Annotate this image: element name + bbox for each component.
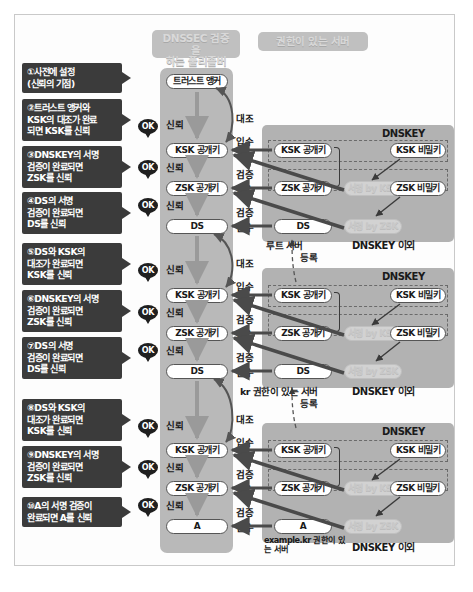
ok-badge-7-label: OK [142, 422, 154, 431]
callout-5-line1: ⑤DS와 KSK의 [27, 246, 117, 258]
zone-root-zsk-pub[interactable]: ZSK 공개키 [274, 181, 332, 196]
ok-badge-5-label: OK [142, 308, 154, 317]
callout-4-pointer [122, 207, 131, 219]
action-label-ipsu-2: 입수 [236, 182, 253, 196]
action-label-ipsu-3: 입수 [236, 220, 253, 234]
ok-badge-1: OK [138, 119, 158, 134]
zone-kr-zsk-priv[interactable]: ZSK 비밀키 [390, 326, 446, 341]
zone-example-server-label: example.kr 권한이 있는 서버 [264, 536, 348, 555]
zone-root-bracket [334, 147, 340, 187]
resolver-node-ksk-pub-kr[interactable]: KSK 공개키 [166, 288, 228, 303]
resolver-node-zsk-pub-root[interactable]: ZSK 공개키 [166, 181, 228, 196]
ok-badge-9-label: OK [142, 501, 154, 510]
ok-badge-7-nub [145, 433, 151, 438]
zone-root-zsk-priv[interactable]: ZSK 비밀키 [390, 181, 446, 196]
zone-kr-dnskey-title: DNSKEY [382, 271, 425, 282]
trust-label-3: 신뢰 [166, 198, 183, 212]
zone-example-ksk-pub[interactable]: KSK 공개키 [274, 443, 332, 458]
callout-5-line3: KSK를 신뢰 [27, 269, 117, 281]
callout-7: ⑦DS의 서명 검증이 완료되면 DS를 신뢰 [22, 337, 122, 379]
ok-badge-9: OK [138, 498, 158, 513]
callout-9-line1: ⑨DNSKEY의 서명 [27, 449, 117, 461]
zone-example-ksk-priv[interactable]: KSK 비밀키 [390, 443, 446, 458]
zone-example-a-record[interactable]: A [274, 519, 332, 534]
action-label-ipsu-4: 입수 [236, 279, 253, 293]
ok-badge-6: OK [138, 343, 158, 358]
callout-2-pointer [122, 114, 131, 126]
action-label-geomjeung-5: 검증 [236, 467, 253, 481]
zone-example-sig-by-zsk[interactable]: 서명 by ZSK [344, 519, 402, 534]
ok-badge-4-nub [145, 277, 151, 282]
ok-badge-2: OK [138, 160, 158, 175]
callout-6: ⑥DNSKEY의 서명 검증이 완료되면 ZSK를 신뢰 [22, 290, 122, 332]
zone-example-other-title: DNSKEY 이외 [352, 539, 415, 554]
resolver-node-ds-root[interactable]: DS [166, 219, 228, 234]
zone-kr-ksk-priv[interactable]: KSK 비밀키 [390, 288, 446, 303]
callout-6-line1: ⑥DNSKEY의 서명 [27, 293, 117, 305]
zone-root-ksk-priv[interactable]: KSK 비밀키 [390, 143, 446, 158]
callout-9-pointer [122, 461, 131, 473]
zone-kr-ds[interactable]: DS [274, 364, 332, 379]
diagram-canvas: DNSSEC 검증을 하는 풀리졸버 권한이 있는 서버 ①사전에 설정 (신뢰… [0, 0, 473, 592]
zone-root-sig-by-zsk[interactable]: 서명 by ZSK [344, 219, 402, 234]
action-label-geomjeung-3: 검증 [236, 312, 253, 326]
action-label-ipsu-5: 입수 [236, 327, 253, 341]
callout-4-line2: 검증이 완료되면 [27, 207, 117, 219]
resolver-node-ds-kr[interactable]: DS [166, 364, 228, 379]
zone-kr-zsk-pub[interactable]: ZSK 공개키 [274, 326, 332, 341]
trust-label-5: 신뢰 [166, 305, 183, 319]
callout-8-line1: ⑧DS와 KSK의 [27, 402, 117, 414]
action-label-ipsu-1: 입수 [236, 134, 253, 148]
ok-badge-9-nub [145, 512, 151, 517]
callout-10: ⑩A의 서명 검증이 완료되면 A를 신뢰 [22, 497, 122, 527]
heading-resolver-line2: 하는 풀리졸버 [158, 56, 234, 68]
callout-3-line2: 검증이 완료되면 [27, 161, 117, 173]
zone-example-zsk-pub[interactable]: ZSK 공개키 [274, 481, 332, 496]
ok-badge-2-label: OK [142, 163, 154, 172]
trust-label-7: 신뢰 [166, 418, 183, 432]
resolver-node-zsk-pub-kr[interactable]: ZSK 공개키 [166, 326, 228, 341]
callout-1-line1: ①사전에 설정 [27, 66, 117, 78]
trust-label-6: 신뢰 [166, 343, 183, 357]
ok-badge-7: OK [138, 419, 158, 434]
callout-8-pointer [122, 414, 131, 426]
zone-root-ds[interactable]: DS [274, 219, 332, 234]
callout-2-line3: 되면 KSK를 신뢰 [27, 125, 117, 137]
zone-example-bracket [334, 447, 340, 487]
resolver-node-zsk-pub-example[interactable]: ZSK 공개키 [166, 481, 228, 496]
callout-1-pointer [122, 72, 131, 84]
ok-badge-5-nub [145, 319, 151, 324]
ok-badge-3-nub [145, 212, 151, 217]
zone-example-zsk-priv[interactable]: ZSK 비밀키 [390, 481, 446, 496]
register-label-2: 등록 [300, 396, 317, 410]
resolver-node-ksk-pub-example[interactable]: KSK 공개키 [166, 443, 228, 458]
zone-root-other-title: DNSKEY 이외 [352, 237, 415, 252]
callout-8: ⑧DS와 KSK의 대조가 완료되면 KSK를 신뢰 [22, 399, 122, 441]
ok-badge-6-label: OK [142, 346, 154, 355]
callout-9-line2: 검증이 완료되면 [27, 461, 117, 473]
callout-5: ⑤DS와 KSK의 대조가 완료되면 KSK를 신뢰 [22, 243, 122, 285]
ok-badge-2-nub [145, 174, 151, 179]
callout-2: ②트러스트 앵커와 KSK의 대조가 완료 되면 KSK를 신뢰 [22, 99, 122, 141]
action-label-geomjeung-4: 검증 [236, 350, 253, 364]
callout-1: ①사전에 설정 (신뢰의 기점) [22, 63, 122, 93]
resolver-node-a-record[interactable]: A [166, 519, 228, 534]
zone-kr-ksk-pub[interactable]: KSK 공개키 [274, 288, 332, 303]
zone-root-server-label: 루트 서버 [266, 238, 303, 252]
resolver-node-trust-anchor[interactable]: 트러스트 앵커 [166, 74, 228, 89]
ok-badge-8-label: OK [142, 463, 154, 472]
callout-5-line2: 대조가 완료되면 [27, 258, 117, 270]
callout-1-line2: (신뢰의 기점) [27, 78, 117, 90]
zone-root-ksk-pub[interactable]: KSK 공개키 [274, 143, 332, 158]
zone-root-dnskey-title: DNSKEY [382, 128, 425, 139]
callout-9-line3: ZSK를 신뢰 [27, 472, 117, 484]
zone-kr-sig-by-zsk[interactable]: 서명 by ZSK [344, 364, 402, 379]
callout-7-line1: ⑦DS의 서명 [27, 340, 117, 352]
action-label-daejo-2: 대조 [236, 256, 253, 270]
ok-badge-6-nub [145, 357, 151, 362]
callout-4-line3: DS를 신뢰 [27, 218, 117, 230]
ok-badge-3-label: OK [142, 201, 154, 210]
callout-8-line3: KSK를 신뢰 [27, 425, 117, 437]
action-label-ipsu-9: 입수 [236, 520, 253, 534]
resolver-node-ksk-pub-root[interactable]: KSK 공개키 [166, 143, 228, 158]
